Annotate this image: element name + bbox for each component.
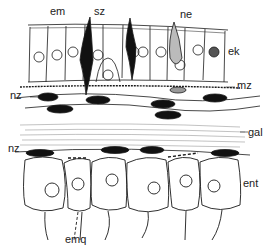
label-emq: emq <box>65 234 86 245</box>
nematocyte <box>170 22 183 64</box>
label-nz-top: nz <box>10 90 22 101</box>
label-ek: ek <box>228 46 240 57</box>
diagram <box>0 0 275 251</box>
label-em: em <box>50 6 65 17</box>
lower-nerve-cells <box>15 147 250 157</box>
label-ent: ent <box>243 178 258 189</box>
label-mz: mz <box>237 80 252 91</box>
label-ne: ne <box>180 9 192 20</box>
label-sz: sz <box>94 6 105 17</box>
nerve-muscle-zone <box>15 86 260 119</box>
label-gal: gal <box>248 127 263 138</box>
ectoderm-layer <box>28 17 228 95</box>
mesoglea <box>20 124 245 147</box>
sensory-cells <box>80 17 136 95</box>
label-nz-bottom: nz <box>8 143 20 154</box>
endoderm-layer <box>24 153 241 240</box>
